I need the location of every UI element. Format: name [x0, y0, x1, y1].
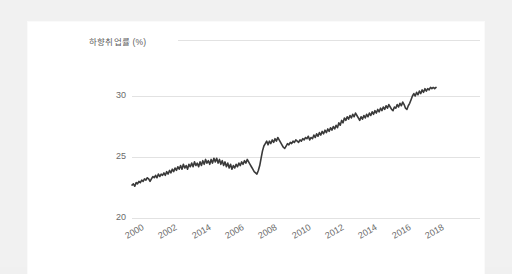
- chart-figure: 하향취업률 (%) 202530 20002002201420062008201…: [28, 22, 484, 274]
- y-tick-30: 30: [100, 90, 126, 100]
- gridlines: [132, 40, 480, 218]
- figure-card: 하향취업률 (%) 202530 20002002201420062008201…: [28, 22, 484, 274]
- series-line-하향취업률: [132, 87, 436, 186]
- y-tick-20: 20: [100, 212, 126, 222]
- y-tick-25: 25: [100, 151, 126, 161]
